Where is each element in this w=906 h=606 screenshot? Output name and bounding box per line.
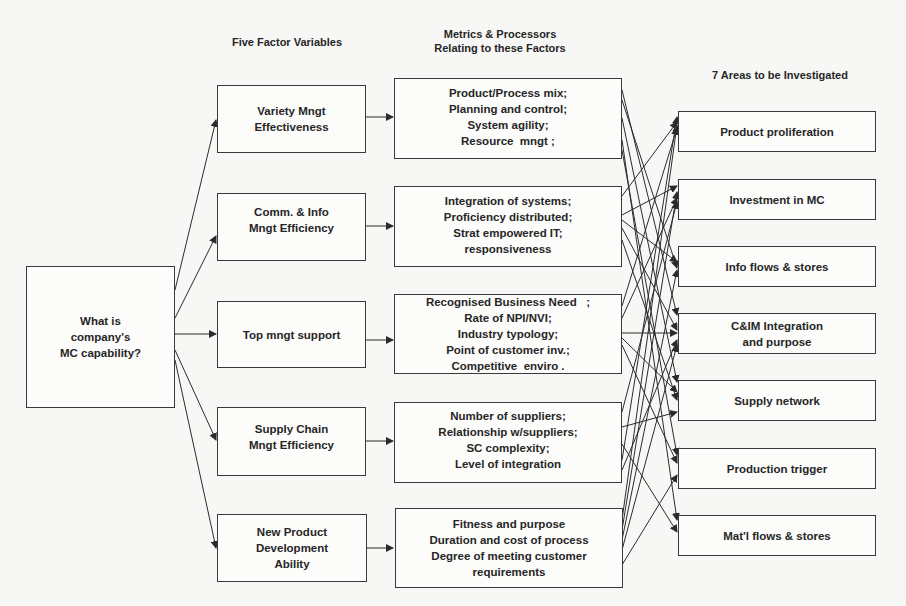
metric-line: Proficiency distributed; bbox=[444, 209, 572, 225]
area-label: Mat'l flows & stores bbox=[723, 528, 831, 544]
metric-line: Industry typology; bbox=[458, 326, 558, 342]
factor-box-comm-info: Comm. & Info Mngt Efficiency bbox=[217, 193, 366, 261]
factor-box-variety: Variety Mngt Effectiveness bbox=[217, 85, 366, 153]
metric-line: Integration of systems; bbox=[445, 193, 572, 209]
metrics-header: Metrics & Processors Relating to these F… bbox=[400, 27, 600, 55]
metric-line: Planning and control; bbox=[449, 101, 567, 117]
factor-line: Development bbox=[256, 540, 328, 556]
factor-line: Effectiveness bbox=[254, 119, 328, 135]
metric-line: Relationship w/suppliers; bbox=[438, 424, 577, 440]
area-box-matl-flows: Mat'l flows & stores bbox=[678, 515, 876, 556]
metric-line: requirements bbox=[473, 564, 546, 580]
metric-line: Fitness and purpose bbox=[453, 516, 565, 532]
metrics-box-npd: Fitness and purpose Duration and cost of… bbox=[395, 508, 623, 588]
area-label: Production trigger bbox=[727, 461, 827, 477]
area-label: Investment in MC bbox=[729, 192, 824, 208]
factor-line: Mngt Efficiency bbox=[249, 220, 334, 236]
metric-line: Rate of NPI/NVI; bbox=[464, 310, 552, 326]
metric-line: SC complexity; bbox=[466, 440, 549, 456]
metric-line: Resource mngt ; bbox=[461, 133, 555, 149]
area-label: Info flows & stores bbox=[726, 259, 829, 275]
metrics-box-variety: Product/Process mix; Planning and contro… bbox=[394, 78, 622, 159]
metrics-header-line2: Relating to these Factors bbox=[400, 41, 600, 55]
area-box-product-proliferation: Product proliferation bbox=[678, 111, 876, 152]
area-label: and purpose bbox=[742, 334, 811, 350]
metric-line: Strat empowered IT; bbox=[453, 225, 562, 241]
metrics-box-comm-info: Integration of systems; Proficiency dist… bbox=[394, 186, 622, 267]
root-line: What is bbox=[80, 313, 121, 329]
metrics-header-line1: Metrics & Processors bbox=[400, 27, 600, 41]
area-box-investment-in-mc: Investment in MC bbox=[678, 179, 876, 220]
root-question-box: What is company's MC capability? bbox=[26, 266, 175, 408]
factor-line: New Product bbox=[257, 524, 327, 540]
metric-line: System agility; bbox=[467, 117, 548, 133]
factor-box-supply-chain: Supply Chain Mngt Efficiency bbox=[217, 407, 366, 476]
area-box-supply-network: Supply network bbox=[678, 380, 876, 421]
metric-line: Level of integration bbox=[455, 456, 561, 472]
root-line: MC capability? bbox=[60, 345, 141, 361]
metric-line: responsiveness bbox=[465, 241, 552, 257]
metric-line: Product/Process mix; bbox=[449, 85, 567, 101]
factor-box-top-mngt: Top mngt support bbox=[217, 301, 366, 368]
factor-line: Comm. & Info bbox=[254, 204, 329, 220]
metric-line: Duration and cost of process bbox=[429, 532, 588, 548]
area-label: C&IM Integration bbox=[731, 318, 823, 334]
factor-line: Mngt Efficiency bbox=[249, 437, 334, 453]
factors-header: Five Factor Variables bbox=[212, 35, 362, 49]
factor-box-npd: New Product Development Ability bbox=[217, 514, 367, 582]
factor-line: Variety Mngt bbox=[257, 103, 325, 119]
factor-line: Supply Chain bbox=[255, 421, 328, 437]
area-label: Supply network bbox=[734, 393, 820, 409]
factor-line: Ability bbox=[274, 556, 309, 572]
area-box-production-trigger: Production trigger bbox=[678, 448, 876, 489]
metric-line: Recognised Business Need ; bbox=[426, 294, 590, 310]
metric-line: Number of suppliers; bbox=[450, 408, 566, 424]
metrics-box-supply-chain: Number of suppliers; Relationship w/supp… bbox=[394, 402, 622, 483]
metric-line: Competitive enviro . bbox=[451, 358, 564, 374]
metric-line: Point of customer inv.; bbox=[446, 342, 570, 358]
area-box-info-flows: Info flows & stores bbox=[678, 246, 876, 287]
areas-header: 7 Areas to be Investigated bbox=[680, 68, 880, 82]
factor-line: Top mngt support bbox=[243, 327, 341, 343]
area-label: Product proliferation bbox=[720, 124, 834, 140]
metric-line: Degree of meeting customer bbox=[431, 548, 586, 564]
area-box-cim-integration: C&IM Integration and purpose bbox=[678, 313, 876, 354]
metrics-box-top-mngt: Recognised Business Need ; Rate of NPI/N… bbox=[394, 294, 622, 374]
root-line: company's bbox=[71, 329, 131, 345]
